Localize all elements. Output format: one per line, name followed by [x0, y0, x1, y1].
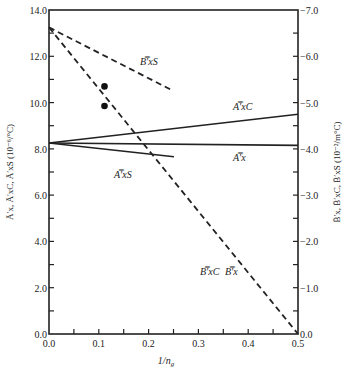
y-tick-label: 8.0 — [35, 144, 48, 155]
left-axis-title: Ā′x, Ā′xC, Ā′xS (10⁻⁶/°C) — [5, 124, 15, 220]
x-tick-labels: 0.0 0.1 0.2 0.3 0.4 0.5 — [43, 338, 305, 349]
y-right-tick-label: −2.0 — [300, 236, 318, 247]
data-point — [101, 83, 108, 90]
right-tick-labels: 0.0 −1.0 −2.0 −3.0 −4.0 −5.0 −6.0 −7.0 — [300, 5, 318, 340]
y-tick-label: 2.0 — [35, 283, 48, 294]
y-tick-label: 0.0 — [35, 329, 48, 340]
x-tick-label: 0.4 — [242, 338, 255, 349]
y-tick-label: 4.0 — [35, 236, 48, 247]
y-tick-label: 6.0 — [35, 190, 48, 201]
chart: 0.0 0.1 0.2 0.3 0.4 0.5 0.0 2.0 4.0 6.0 … — [0, 0, 349, 369]
y-right-tick-label: −1.0 — [300, 283, 318, 294]
y-right-tick-label: −4.0 — [300, 144, 318, 155]
y-right-tick-label: −3.0 — [300, 190, 318, 201]
annotation-bx: B̿′x — [225, 266, 238, 277]
y-tick-label: 10.0 — [30, 98, 48, 109]
plot-frame — [49, 10, 298, 334]
y-right-tick-label: −6.0 — [300, 51, 318, 62]
annotation-axs: A̿′xS — [113, 169, 132, 180]
annotations: B̿′xS A̿′xC A̿′x A̿′xS B̿′xC B̿′x — [113, 56, 253, 277]
left-tick-labels: 0.0 2.0 4.0 6.0 8.0 10.0 12.0 14.0 — [30, 5, 48, 340]
x-axis-title: 1/ng — [158, 355, 175, 368]
y-right-tick-label: 0.0 — [300, 329, 313, 340]
y-tick-label: 14.0 — [30, 5, 48, 16]
series-ax-line — [49, 143, 298, 145]
series-lines — [49, 27, 298, 334]
y-right-tick-label: −5.0 — [300, 98, 318, 109]
right-axis-title: B̄′x, B̄′xC, B̄′xS (10⁻²/m°C) — [332, 121, 342, 222]
annotation-axc: A̿′xC — [232, 101, 253, 112]
annotation-bxc: B̿′xC — [200, 266, 220, 277]
y-tick-label: 12.0 — [30, 51, 48, 62]
x-tick-label: 0.2 — [142, 338, 155, 349]
series-axs-line — [49, 143, 174, 157]
data-point — [101, 103, 108, 110]
annotation-bxs: B̿′xS — [140, 56, 158, 67]
x-tick-label: 0.3 — [192, 338, 205, 349]
measured-points — [101, 83, 108, 109]
series-axc-line — [49, 114, 298, 143]
x-tick-label: 0.1 — [93, 338, 106, 349]
series-bxc-bx-line — [49, 27, 298, 334]
y-right-tick-label: −7.0 — [300, 5, 318, 16]
annotation-ax: A̿′x — [232, 152, 246, 163]
